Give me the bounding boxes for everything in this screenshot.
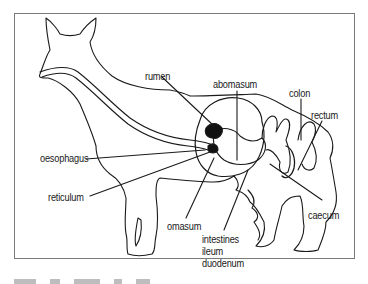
label-oesophagus: oesophagus xyxy=(40,153,88,164)
clipped-caption xyxy=(14,279,174,284)
label-intestines: intestines xyxy=(202,234,239,245)
leader-oesophagus xyxy=(86,150,205,159)
label-ileum: ileum xyxy=(202,246,223,257)
leader-omasum xyxy=(186,158,214,218)
label-rectum: rectum xyxy=(311,110,338,121)
label-caecum: caecum xyxy=(308,210,339,221)
leader-rumen xyxy=(162,77,214,126)
rumen-sac xyxy=(195,98,264,177)
calf-digestive-diagram xyxy=(0,0,368,284)
leg-slit xyxy=(135,218,141,246)
label-duodenum: duodenum xyxy=(202,258,244,269)
label-abomasum: abomasum xyxy=(213,79,257,90)
oesophagus-tube-bottom xyxy=(42,73,208,150)
label-colon: colon xyxy=(289,88,310,99)
label-reticulum: reticulum xyxy=(48,192,84,203)
oesophagus-tube-top xyxy=(40,68,210,145)
calf-outline xyxy=(39,18,336,256)
label-omasum: omasum xyxy=(167,221,201,232)
label-rumen: rumen xyxy=(145,71,170,82)
leader-reticulum xyxy=(90,152,210,196)
leader-caecum xyxy=(270,164,322,200)
small-intestine-loops xyxy=(262,116,290,173)
hind-leg-contour xyxy=(248,190,260,240)
